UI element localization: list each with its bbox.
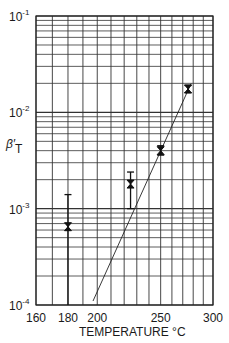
x-marker-icon — [127, 180, 134, 188]
x-tick-label: 200 — [87, 311, 107, 325]
x-marker-icon — [64, 223, 71, 231]
y-axis-ticks: 10-110-210-310-4 — [9, 8, 30, 313]
x-tick-label: 180 — [58, 311, 78, 325]
fit-line-segment — [93, 83, 191, 301]
x-marker-icon — [185, 85, 192, 93]
grid — [36, 16, 213, 305]
y-axis-label-text: β′T — [5, 137, 23, 156]
y-tick-exponent: -1 — [22, 8, 30, 17]
x-tick-label: 300 — [203, 311, 223, 325]
x-tick-label: 250 — [151, 311, 171, 325]
data-point — [127, 172, 134, 209]
x-tick-label: 160 — [26, 311, 46, 325]
y-tick-exponent: -4 — [22, 297, 30, 306]
y-tick-label: 10-2 — [9, 104, 30, 120]
x-axis-label: TEMPERATURE °C — [79, 325, 186, 339]
y-axis-label: β′T — [5, 137, 23, 156]
fit-line — [93, 83, 191, 301]
data-point — [64, 195, 71, 305]
y-tick-label: 10-3 — [9, 201, 30, 217]
arrhenius-chart: 10-110-210-310-4 160180200250300 β′T TEM… — [0, 0, 229, 343]
data-point — [185, 85, 192, 93]
x-axis-ticks: 160180200250300 — [26, 311, 223, 325]
y-tick-label: 10-1 — [9, 8, 30, 24]
data-points — [64, 85, 191, 305]
y-tick-exponent: -3 — [22, 201, 30, 210]
y-tick-exponent: -2 — [22, 104, 30, 113]
